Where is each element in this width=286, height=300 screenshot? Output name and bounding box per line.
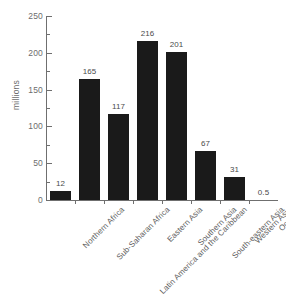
- y-tick-label: 0: [3, 196, 43, 204]
- bar: [195, 151, 216, 200]
- bar-value-label: 12: [41, 180, 81, 188]
- y-tick-label: 100: [3, 122, 43, 130]
- bar: [50, 191, 71, 200]
- bar: [166, 52, 187, 200]
- category-label: Northern Africa: [81, 205, 126, 250]
- y-axis-title: millions: [11, 65, 21, 125]
- x-tick: [104, 200, 105, 204]
- x-tick: [249, 200, 250, 204]
- bar-value-label: 31: [215, 166, 255, 174]
- bar: [108, 114, 129, 200]
- x-tick: [75, 200, 76, 204]
- bar: [79, 79, 100, 200]
- bar-value-label: 216: [128, 30, 168, 38]
- y-tick-major: [46, 200, 52, 201]
- x-tick: [220, 200, 221, 204]
- y-tick-label: 150: [3, 86, 43, 94]
- bar-value-label: 165: [70, 68, 110, 76]
- bar-value-label: 67: [186, 140, 226, 148]
- bar: [224, 177, 245, 200]
- bar-chart: millions 050100150200250 Northern Africa…: [0, 0, 286, 300]
- bar-value-label: 0.5: [244, 189, 284, 197]
- bar: [137, 41, 158, 200]
- y-tick-label: 250: [3, 12, 43, 20]
- x-tick: [162, 200, 163, 204]
- bar-value-label: 201: [157, 41, 197, 49]
- x-tick: [191, 200, 192, 204]
- bar-value-label: 117: [99, 103, 139, 111]
- x-tick: [133, 200, 134, 204]
- y-tick-label: 50: [3, 159, 43, 167]
- y-tick-label: 200: [3, 49, 43, 57]
